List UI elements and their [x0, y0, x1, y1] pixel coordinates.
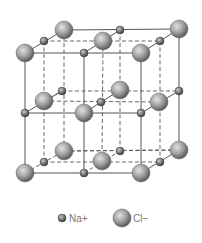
- legend: Na+ Cl−: [58, 209, 148, 227]
- chloride-ion: [35, 92, 53, 110]
- sodium-ion: [137, 109, 145, 117]
- chloride-ion: [94, 32, 112, 50]
- chloride-ion: [16, 164, 34, 182]
- chloride-ion: [132, 44, 150, 62]
- legend-label-chloride: Cl−: [133, 213, 148, 224]
- sodium-ion: [21, 109, 29, 117]
- sodium-ion: [40, 158, 48, 166]
- chloride-ion: [55, 21, 73, 39]
- chloride-ion: [150, 93, 168, 111]
- sodium-ion: [80, 49, 88, 57]
- chloride-ion: [75, 104, 93, 122]
- chloride-ion: [55, 142, 73, 160]
- sodium-ion: [156, 158, 164, 166]
- chloride-ion: [93, 152, 111, 170]
- chloride-ion: [170, 141, 188, 159]
- sodium-ion-icon: [58, 214, 66, 222]
- chloride-ion: [111, 81, 129, 99]
- sodium-ion: [97, 98, 105, 106]
- sodium-ion: [40, 37, 48, 45]
- sodium-ion: [116, 147, 124, 155]
- legend-label-sodium: Na+: [69, 213, 88, 224]
- sodium-ion: [116, 26, 124, 34]
- sodium-ion: [175, 87, 183, 95]
- sodium-ion: [58, 87, 66, 95]
- chloride-ion-icon: [113, 209, 131, 227]
- atoms-layer: [16, 20, 188, 182]
- sodium-ion: [80, 169, 88, 177]
- sodium-ion: [156, 37, 164, 45]
- nacl-lattice-diagram: Na+ Cl−: [0, 0, 202, 243]
- chloride-ion: [170, 20, 188, 38]
- chloride-ion: [16, 44, 34, 62]
- chloride-ion: [132, 164, 150, 182]
